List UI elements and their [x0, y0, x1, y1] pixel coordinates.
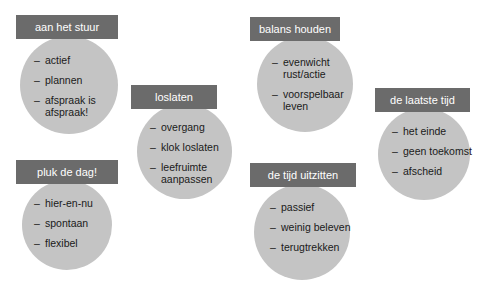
list-item: leefruimte aanpassen — [150, 161, 230, 185]
list-de-laatste-tijd: het einde geen toekomst afscheid — [392, 125, 474, 185]
list-item: spontaan — [34, 217, 114, 229]
list-item: terugtrekken — [270, 241, 356, 253]
list-aan-het-stuur: actief plannen afspraak is afspraak! — [34, 54, 114, 126]
list-item: hier-en-nu — [34, 197, 114, 209]
label-de-tijd-uitzitten: de tijd uitzitten — [250, 163, 356, 187]
list-loslaten: overgang klok loslaten leefruimte aanpas… — [150, 121, 230, 193]
list-item: flexibel — [34, 237, 114, 249]
list-pluk-de-dag: hier-en-nu spontaan flexibel — [34, 197, 114, 257]
list-item: geen toekomst — [392, 145, 474, 157]
label-aan-het-stuur: aan het stuur — [16, 15, 118, 39]
list-de-tijd-uitzitten: passief weinig beleven terugtrekken — [270, 201, 356, 261]
list-item: actief — [34, 54, 114, 66]
label-de-laatste-tijd: de laatste tijd — [375, 88, 470, 112]
list-item: evenwicht rust/actie — [272, 56, 346, 80]
list-item: klok loslaten — [150, 141, 230, 153]
label-balans-houden: balans houden — [250, 17, 340, 41]
list-item: plannen — [34, 74, 114, 86]
list-balans-houden: evenwicht rust/actie voorspelbaar leven — [272, 56, 346, 120]
list-item: afspraak is afspraak! — [34, 94, 114, 118]
list-item: het einde — [392, 125, 474, 137]
list-item: weinig beleven — [270, 221, 356, 233]
label-loslaten: loslaten — [131, 85, 217, 109]
list-item: overgang — [150, 121, 230, 133]
label-pluk-de-dag: pluk de dag! — [16, 160, 118, 184]
list-item: afscheid — [392, 165, 474, 177]
list-item: passief — [270, 201, 356, 213]
list-item: voorspelbaar leven — [272, 88, 346, 112]
